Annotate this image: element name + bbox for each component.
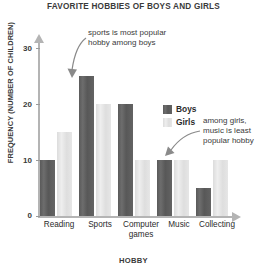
x-category-reading: Reading — [38, 220, 80, 230]
legend-label-girls: Girls — [176, 117, 195, 127]
legend-label-boys: Boys — [176, 104, 196, 114]
y-tick-label-20: 20 — [10, 100, 32, 109]
y-tick-label-0: 0 — [10, 211, 32, 220]
legend-item-girls: Girls — [163, 117, 196, 127]
bar-chart: FAVORITE HOBBIES OF BOYS AND GIRLS FREQU… — [0, 0, 267, 270]
x-category-collecting: Collecting — [193, 220, 241, 230]
y-tick-label-30: 30 — [10, 44, 32, 53]
bar-reading-girls — [57, 132, 72, 216]
y-tick-label-10: 10 — [10, 156, 32, 165]
y-tick-mark-0 — [36, 216, 40, 217]
x-category-computer-games: Computergames — [118, 220, 164, 239]
bar-reading-boys — [40, 160, 55, 216]
bar-sports-girls — [96, 104, 111, 216]
legend-item-boys: Boys — [163, 104, 196, 114]
bar-sports-boys — [79, 76, 94, 216]
x-category-sports: Sports — [79, 220, 121, 230]
bar-computer-games-boys — [118, 104, 133, 216]
bar-collecting-girls — [213, 160, 228, 216]
bar-collecting-boys — [196, 188, 211, 216]
bar-music-girls — [174, 160, 189, 216]
legend-swatch-boys — [163, 105, 172, 114]
annotation-sports-text: sports is most popular hobby among boys — [88, 28, 176, 48]
bar-computer-games-girls — [135, 160, 150, 216]
bar-music-boys — [157, 160, 172, 216]
x-axis-label: HOBBY — [0, 256, 267, 265]
legend: Boys Girls — [163, 104, 196, 130]
y-axis-label: FREQUENCY (NUMBER OF CHILDREN) — [6, 20, 15, 165]
x-axis-line — [38, 216, 234, 218]
annotation-music-text: among girls, music is least popular hobb… — [203, 116, 267, 147]
legend-swatch-girls — [163, 118, 172, 127]
chart-title: FAVORITE HOBBIES OF BOYS AND GIRLS — [0, 2, 267, 11]
